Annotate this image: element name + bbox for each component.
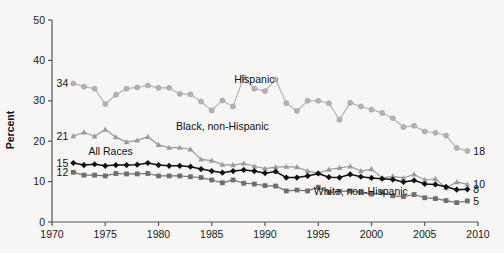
series-label-hispanic: Hispanic bbox=[234, 73, 274, 85]
marker-hispanic-1980 bbox=[156, 85, 161, 90]
y-tick-label-10: 10 bbox=[33, 175, 45, 187]
marker-white-non-hispanic-2004 bbox=[412, 192, 417, 197]
y-tick-label-50: 50 bbox=[33, 14, 45, 26]
marker-white-non-hispanic-1988 bbox=[241, 181, 246, 186]
marker-white-non-hispanic-1977 bbox=[124, 172, 129, 177]
marker-hispanic-1982 bbox=[177, 91, 182, 96]
start-label-white-non-hispanic: 12 bbox=[57, 166, 69, 178]
marker-hispanic-1973 bbox=[81, 84, 86, 89]
marker-white-non-hispanic-1986 bbox=[220, 180, 225, 185]
y-tick-label-40: 40 bbox=[33, 54, 45, 66]
end-label-white-non-hispanic: 5 bbox=[473, 195, 479, 207]
marker-hispanic-1983 bbox=[188, 92, 193, 97]
marker-hispanic-1992 bbox=[284, 101, 289, 106]
x-tick-label-1995: 1995 bbox=[307, 228, 331, 240]
x-tick-label-1985: 1985 bbox=[200, 228, 224, 240]
series-label-black-non-hispanic: Black, non-Hispanic bbox=[176, 120, 269, 132]
marker-white-non-hispanic-1990 bbox=[263, 183, 268, 188]
marker-hispanic-2009 bbox=[465, 148, 470, 153]
marker-white-non-hispanic-1978 bbox=[135, 172, 140, 177]
marker-white-non-hispanic-2006 bbox=[433, 196, 438, 201]
marker-white-non-hispanic-1985 bbox=[209, 178, 214, 183]
y-tick-label-30: 30 bbox=[33, 94, 45, 106]
marker-hispanic-1989 bbox=[252, 86, 257, 91]
line-chart: 01020304050 1970197519801985199019952000… bbox=[0, 0, 504, 253]
marker-white-non-hispanic-2007 bbox=[444, 198, 449, 203]
marker-white-non-hispanic-1975 bbox=[103, 174, 108, 179]
end-label-all-races: 8 bbox=[473, 183, 479, 195]
x-tick-label-2000: 2000 bbox=[360, 228, 384, 240]
marker-hispanic-2003 bbox=[401, 125, 406, 130]
y-tick-label-20: 20 bbox=[33, 135, 45, 147]
y-axis-title: Percent bbox=[4, 110, 16, 149]
marker-hispanic-1998 bbox=[348, 100, 353, 105]
marker-white-non-hispanic-1974 bbox=[92, 173, 97, 178]
marker-hispanic-1987 bbox=[231, 104, 236, 109]
marker-white-non-hispanic-1973 bbox=[82, 173, 87, 178]
marker-hispanic-1985 bbox=[209, 108, 214, 113]
marker-hispanic-1979 bbox=[145, 83, 150, 88]
marker-white-non-hispanic-1980 bbox=[156, 174, 161, 179]
start-label-black-non-hispanic: 21 bbox=[57, 130, 69, 142]
marker-hispanic-1975 bbox=[103, 102, 108, 107]
marker-white-non-hispanic-1983 bbox=[188, 174, 193, 179]
x-tick-label-2005: 2005 bbox=[413, 228, 437, 240]
marker-white-non-hispanic-1989 bbox=[252, 182, 257, 187]
marker-hispanic-1995 bbox=[316, 98, 321, 103]
marker-hispanic-1996 bbox=[326, 101, 331, 106]
marker-white-non-hispanic-1979 bbox=[145, 171, 150, 176]
chart-container: 01020304050 1970197519801985199019952000… bbox=[0, 0, 504, 253]
y-tick-label-0: 0 bbox=[39, 216, 45, 228]
marker-white-non-hispanic-2009 bbox=[465, 199, 470, 204]
marker-white-non-hispanic-2005 bbox=[422, 195, 427, 200]
marker-hispanic-1986 bbox=[220, 98, 225, 103]
series-label-all-races: All Races bbox=[88, 145, 132, 157]
x-tick-label-1990: 1990 bbox=[253, 228, 277, 240]
marker-hispanic-1977 bbox=[124, 86, 129, 91]
marker-white-non-hispanic-1992 bbox=[284, 188, 289, 193]
marker-hispanic-1974 bbox=[92, 86, 97, 91]
marker-hispanic-1999 bbox=[358, 104, 363, 109]
marker-hispanic-1990 bbox=[263, 89, 268, 94]
marker-hispanic-1981 bbox=[167, 85, 172, 90]
marker-hispanic-1972 bbox=[71, 81, 76, 86]
marker-hispanic-1997 bbox=[337, 117, 342, 122]
marker-hispanic-2007 bbox=[444, 133, 449, 138]
x-tick-label-1975: 1975 bbox=[94, 228, 118, 240]
marker-white-non-hispanic-1982 bbox=[177, 174, 182, 179]
marker-hispanic-2004 bbox=[412, 123, 417, 128]
marker-white-non-hispanic-1972 bbox=[71, 170, 76, 175]
start-label-hispanic: 34 bbox=[57, 77, 69, 89]
marker-hispanic-1978 bbox=[135, 85, 140, 90]
marker-hispanic-2006 bbox=[433, 130, 438, 135]
end-label-hispanic: 18 bbox=[473, 145, 485, 157]
marker-white-non-hispanic-2008 bbox=[454, 200, 459, 205]
marker-white-non-hispanic-1981 bbox=[167, 174, 172, 179]
marker-hispanic-1976 bbox=[113, 92, 118, 97]
marker-white-non-hispanic-1994 bbox=[305, 188, 310, 193]
x-tick-label-1980: 1980 bbox=[147, 228, 171, 240]
marker-hispanic-2001 bbox=[380, 110, 385, 115]
marker-hispanic-1994 bbox=[305, 98, 310, 103]
series-label-white-non-hispanic: White, non-Hispanic bbox=[314, 185, 408, 197]
marker-white-non-hispanic-1976 bbox=[114, 171, 119, 176]
x-tick-label-1970: 1970 bbox=[40, 228, 64, 240]
marker-white-non-hispanic-1991 bbox=[273, 184, 278, 189]
marker-hispanic-1993 bbox=[294, 108, 299, 113]
marker-white-non-hispanic-1993 bbox=[295, 188, 300, 193]
marker-hispanic-1984 bbox=[199, 99, 204, 104]
marker-hispanic-2002 bbox=[390, 116, 395, 121]
marker-hispanic-2005 bbox=[422, 129, 427, 134]
marker-hispanic-2000 bbox=[369, 107, 374, 112]
marker-white-non-hispanic-1987 bbox=[231, 178, 236, 183]
marker-hispanic-2008 bbox=[454, 146, 459, 151]
x-tick-label-2010: 2010 bbox=[466, 228, 490, 240]
marker-white-non-hispanic-1984 bbox=[199, 175, 204, 180]
